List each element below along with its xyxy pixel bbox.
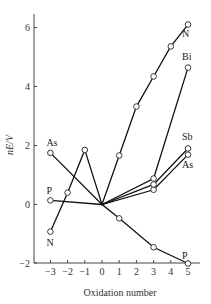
- y-tick-label: 2: [25, 140, 30, 151]
- series-line-p: [50, 200, 188, 263]
- y-axis-title: nE/V: [4, 133, 15, 155]
- series-label-as: As: [46, 137, 57, 148]
- x-tick-label: 0: [100, 266, 105, 277]
- data-point-bi: [185, 65, 191, 71]
- data-point-as: [48, 150, 54, 156]
- series-label-bi: Bi: [182, 51, 192, 62]
- data-point-as: [185, 152, 191, 158]
- data-point-n: [65, 190, 71, 196]
- y-tick-label: 0: [25, 199, 30, 210]
- series-line-bi: [102, 68, 188, 205]
- data-point-p: [48, 198, 54, 204]
- data-point-n: [134, 104, 140, 110]
- series-points: [48, 22, 191, 267]
- y-tick-label: 4: [25, 81, 30, 92]
- x-tick-label: 3: [151, 266, 156, 277]
- data-point-n: [185, 22, 191, 28]
- series-label-n: N: [182, 28, 189, 39]
- x-tick-label: 2: [134, 266, 139, 277]
- y-tick-label: 6: [25, 22, 30, 33]
- data-point-as: [151, 187, 157, 193]
- data-point-sb: [185, 146, 191, 152]
- series-label-p: P: [46, 185, 52, 196]
- data-point-n: [116, 153, 122, 159]
- data-point-p: [185, 261, 191, 267]
- data-point-p: [116, 216, 122, 222]
- series-label-n: N: [46, 237, 53, 248]
- series-label-p: P: [182, 250, 188, 261]
- series-line-sb: [102, 148, 188, 204]
- data-point-n: [82, 147, 88, 153]
- series-label-as: As: [182, 159, 193, 170]
- data-point-sb: [151, 182, 157, 188]
- data-point-p: [151, 244, 157, 250]
- series-line-n: [50, 25, 188, 232]
- series-line-as: [50, 153, 188, 205]
- x-tick-label: −1: [79, 266, 90, 277]
- data-point-n: [151, 74, 157, 80]
- x-tick-label: 4: [168, 266, 173, 277]
- x-tick-label: −2: [62, 266, 73, 277]
- data-point-n: [48, 229, 54, 235]
- y-tick-label: −2: [19, 258, 30, 269]
- data-point-bi: [151, 176, 157, 182]
- series-label-sb: Sb: [182, 131, 193, 142]
- x-tick-label: 1: [117, 266, 122, 277]
- frost-diagram: −20246−3−2−1012345 NNPPAsAsSbBi Oxidatio…: [0, 0, 211, 304]
- x-tick-label: 5: [186, 266, 191, 277]
- x-axis-title: Oxidation number: [83, 287, 157, 298]
- data-point-n: [168, 44, 174, 50]
- x-tick-label: −3: [45, 266, 56, 277]
- series-lines: [50, 25, 188, 264]
- series-labels: NNPPAsAsSbBi: [46, 28, 193, 261]
